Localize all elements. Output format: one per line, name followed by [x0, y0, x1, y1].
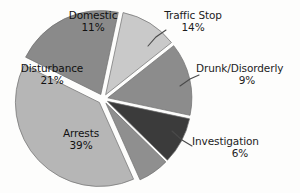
slice-label-traffic-stop-name: Traffic Stop — [150, 10, 236, 22]
slice-label-domestic: Domestic 11% — [60, 10, 126, 34]
slice-label-domestic-name: Domestic — [60, 10, 126, 22]
slice-label-domestic-value: 11% — [60, 22, 126, 34]
slice-label-arrests-name: Arrests — [50, 128, 112, 140]
slice-label-investigation-value: 6% — [192, 148, 288, 160]
slice-label-traffic-stop-value: 14% — [150, 22, 236, 34]
slice-label-arrests: Arrests 39% — [50, 128, 112, 152]
slice-label-investigation-name: Investigation — [192, 136, 288, 148]
slice-label-drunk-disorderly-name: Drunk/Disorderly — [196, 63, 298, 75]
slice-label-drunk-disorderly: Drunk/Disorderly 9% — [196, 63, 298, 87]
slice-label-arrests-value: 39% — [50, 140, 112, 152]
slice-label-investigation: Investigation 6% — [192, 136, 288, 160]
pie-chart: Domestic 11% Traffic Stop 14% Drunk/Diso… — [0, 0, 300, 193]
pie-slices — [15, 10, 191, 186]
slice-label-disturbance-value: 21% — [10, 75, 94, 87]
slice-label-disturbance-name: Disturbance — [10, 63, 94, 75]
slice-label-drunk-disorderly-value: 9% — [196, 75, 298, 87]
slice-label-disturbance: Disturbance 21% — [10, 63, 94, 87]
slice-label-traffic-stop: Traffic Stop 14% — [150, 10, 236, 34]
